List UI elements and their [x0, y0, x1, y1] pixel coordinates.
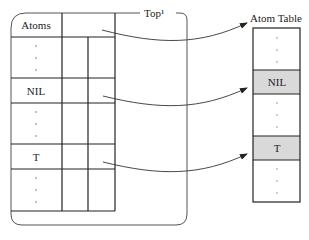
- row-dots-1: [35, 45, 36, 70]
- row-label-nil: NIL: [27, 85, 46, 97]
- diagram-canvas: Top¹ Atoms NIL T Atom Table NIL: [0, 0, 309, 240]
- top-label: Top¹: [144, 7, 164, 19]
- atom-table-title: Atom Table: [250, 12, 302, 24]
- top-container-outline: [11, 13, 187, 225]
- row-label-atoms: Atoms: [21, 19, 50, 31]
- row-dots-2: [35, 111, 36, 136]
- atom-table-t-label: T: [274, 142, 281, 154]
- arrow-t-to-t: [103, 154, 247, 172]
- arrow-nil-to-nil: [103, 88, 247, 106]
- row-dots-3: [35, 177, 36, 202]
- row-label-t: T: [33, 151, 40, 163]
- atom-table-nil-label: NIL: [268, 76, 287, 88]
- atom-table-dots: [276, 37, 277, 193]
- arrow-atoms-to-table: [102, 23, 247, 40]
- symbol-grid: [11, 13, 115, 211]
